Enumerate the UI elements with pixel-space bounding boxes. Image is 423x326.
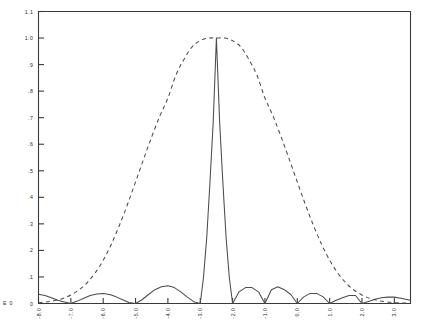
x-tick-label: -2.0 — [230, 308, 236, 319]
x-tick-label: 3.0 — [391, 308, 397, 317]
axes-frame-path — [39, 12, 411, 304]
axes-frame — [39, 12, 411, 304]
x-tick-label: -4.0 — [165, 308, 171, 319]
plot-figure: 0.1.2.3.4.5.6.7.8.91.01.1 -8.0-7.0-6.0-5… — [0, 0, 423, 326]
x-tick-label: -7.0 — [68, 308, 74, 319]
y-tick-label: .6 — [28, 141, 33, 147]
y-tick-label: .3 — [28, 221, 33, 227]
y-tick-label: .7 — [28, 115, 33, 121]
y-tick-label: .8 — [28, 88, 33, 94]
y-tick-label: .2 — [28, 247, 33, 253]
x-tick-label: -1.0 — [262, 308, 268, 319]
x-tick-label: 2.0 — [359, 308, 365, 317]
y-tick-label: .1 — [28, 274, 33, 280]
series-rectified-sinc — [39, 38, 411, 303]
x-tick-label: -3.0 — [197, 308, 203, 319]
y-tick-label: 0 — [30, 301, 33, 307]
y-axis-tick-labels: 0.1.2.3.4.5.6.7.8.91.01.1 — [25, 9, 34, 307]
x-tick-label: 0.0 — [294, 308, 300, 317]
exponent-annotation: E 0 — [3, 300, 13, 306]
x-axis-tick-labels: -8.0-7.0-6.0-5.0-4.0-3.0-2.0-1.00.01.02.… — [36, 308, 398, 319]
y-tick-label: 1.0 — [25, 35, 34, 41]
y-tick-label: .5 — [28, 168, 33, 174]
x-tick-label: -6.0 — [100, 308, 106, 319]
x-tick-label: 1.0 — [327, 308, 333, 317]
y-tick-label: .9 — [28, 62, 33, 68]
series-gaussian-envelope — [39, 38, 411, 303]
y-axis-ticks — [39, 12, 45, 304]
y-tick-label: .4 — [28, 194, 33, 200]
x-tick-label: -8.0 — [36, 308, 42, 319]
y-tick-label: 1.1 — [25, 9, 34, 15]
chart-canvas: 0.1.2.3.4.5.6.7.8.91.01.1 -8.0-7.0-6.0-5… — [0, 0, 423, 326]
x-tick-label: -5.0 — [133, 308, 139, 319]
